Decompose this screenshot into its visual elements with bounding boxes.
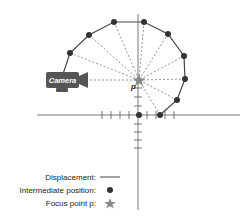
camera-icon: Camera bbox=[46, 72, 88, 92]
legend: Displacement: Intermediate position: Foc… bbox=[20, 173, 121, 209]
legend-dot-icon bbox=[107, 187, 113, 193]
camera-orbit-diagram: Camera p Displacement: Intermediate posi… bbox=[0, 0, 245, 224]
legend-focus-label: Focus point p: bbox=[46, 199, 96, 208]
intermediate-positions bbox=[67, 19, 188, 118]
camera-label: Camera bbox=[49, 76, 77, 85]
legend-intermediate-label: Intermediate position: bbox=[20, 186, 97, 195]
legend-displacement-label: Displacement: bbox=[45, 173, 96, 182]
focus-label: p bbox=[130, 82, 136, 91]
legend-star-icon bbox=[104, 198, 116, 209]
